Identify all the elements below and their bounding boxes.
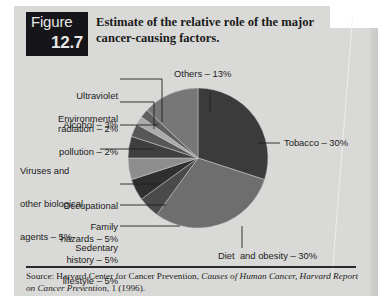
- label-others: Others – 13%: [174, 68, 231, 79]
- source-citation: Source: Harvard Center for Cancer Preven…: [26, 271, 360, 294]
- label-viruses-line1: Viruses and: [20, 165, 112, 176]
- source-suffix: , 1 (1996).: [107, 283, 145, 293]
- figure-root: Figure 12.7 Estimate of the relative rol…: [0, 0, 388, 305]
- figure-badge-number: 12.7: [31, 33, 83, 52]
- source-prefix: Source: Harvard Center for Cancer Preven…: [26, 271, 201, 281]
- label-tobacco: Tobacco – 30%: [284, 137, 348, 148]
- label-alcohol: Alcohol – 3%: [34, 119, 118, 130]
- source-divider: [26, 266, 356, 268]
- label-sedentary-line1: Sedentary: [36, 242, 118, 253]
- figure-badge-word: Figure: [31, 14, 83, 30]
- pie-slice-group: [128, 88, 268, 228]
- figure-number-badge: Figure 12.7: [26, 12, 88, 56]
- label-diet-and-obesity: Diet and obesity – 30%: [218, 250, 317, 261]
- figure-title: Estimate of the relative role of the maj…: [96, 14, 346, 46]
- pie-chart: Others – 13% Tobacco – 30% Diet and obes…: [14, 62, 378, 262]
